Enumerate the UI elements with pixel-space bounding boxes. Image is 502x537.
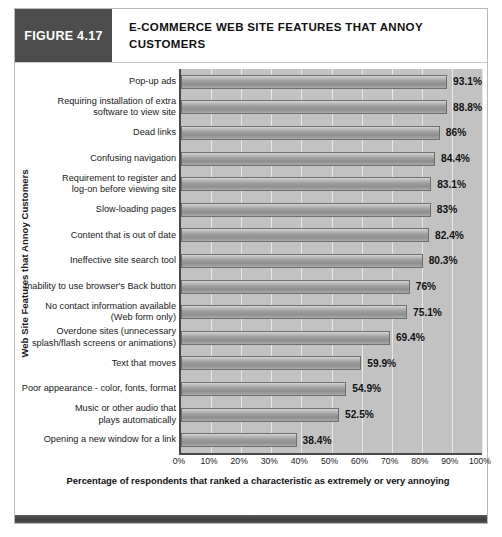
category-label: Overdone sites (unnecessarysplash/flash … [0, 326, 176, 349]
bar [181, 126, 440, 140]
x-axis-tick-label: 0% [173, 456, 185, 466]
bar-value-label: 86% [446, 127, 466, 138]
category-label: No contact information available(Web for… [0, 301, 176, 324]
category-label: Requirement to register andlog-on before… [0, 173, 176, 196]
x-axis-tick-label: 20% [231, 456, 248, 466]
bar-track: 38.4% [181, 427, 482, 453]
bar-track: 69.4% [181, 325, 482, 351]
x-axis-tick-label: 80% [411, 456, 428, 466]
bar-row: Music or other audio thatplays automatic… [37, 402, 479, 428]
x-axis-tick-label: 100% [469, 456, 491, 466]
x-axis-tick-label: 40% [291, 456, 308, 466]
bar [181, 254, 423, 268]
bar [181, 203, 431, 217]
bar-track: 52.5% [181, 402, 482, 428]
bar-row: Inability to use browser's Back button76… [37, 274, 479, 300]
category-label: Confusing navigation [0, 153, 176, 165]
bar-row: Opening a new window for a link38.4% [37, 427, 479, 453]
bar [181, 75, 447, 89]
bar-row: Dead links86% [37, 120, 479, 146]
bar-row: Confusing navigation84.4% [37, 146, 479, 172]
bar-value-label: 52.5% [345, 409, 374, 420]
chart-body: Web Site Features that Annoy Customers P… [15, 63, 487, 524]
bar-track: 76% [181, 274, 482, 300]
x-axis-tick-label: 10% [200, 456, 217, 466]
plot-wrapper: Pop-up ads93.1%Requiring installation of… [37, 63, 479, 524]
bar-value-label: 76% [416, 281, 436, 292]
bar [181, 228, 429, 242]
bar-track: 54.9% [181, 376, 482, 402]
bar-row: Ineffective site search tool80.3% [37, 248, 479, 274]
x-axis-ticks: 0%10%20%30%40%50%60%70%80%90%100% [179, 456, 480, 470]
category-label: Text that moves [0, 358, 176, 370]
bar-track: 59.9% [181, 351, 482, 377]
figure-title: E-COMMERCE WEB SITE FEATURES THAT ANNOY … [112, 9, 487, 62]
bar [181, 382, 346, 396]
bar-value-label: 93.1% [453, 76, 482, 87]
category-label: Dead links [0, 127, 176, 139]
bar-track: 80.3% [181, 248, 482, 274]
category-label: Pop-up ads [0, 76, 176, 88]
bar [181, 177, 431, 191]
bar [181, 152, 435, 166]
category-label: Slow-loading pages [0, 204, 176, 216]
bar-track: 84.4% [181, 146, 482, 172]
figure-header: FIGURE 4.17 E-COMMERCE WEB SITE FEATURES… [15, 9, 487, 63]
bar-value-label: 83.1% [437, 179, 466, 190]
bar-value-label: 69.4% [396, 332, 425, 343]
bar [181, 100, 447, 114]
bar-row: Pop-up ads93.1% [37, 69, 479, 95]
bar-row: Overdone sites (unnecessarysplash/flash … [37, 325, 479, 351]
gridline [482, 69, 483, 453]
x-axis-tick-label: 50% [321, 456, 338, 466]
bar [181, 408, 339, 422]
category-label: Music or other audio thatplays automatic… [0, 403, 176, 426]
bar-rows: Pop-up ads93.1%Requiring installation of… [37, 69, 479, 453]
category-label: Opening a new window for a link [0, 434, 176, 446]
category-label: Content that is out of date [0, 230, 176, 242]
bar [181, 305, 407, 319]
figure-number-tag: FIGURE 4.17 [15, 9, 112, 62]
bar-row: Slow-loading pages83% [37, 197, 479, 223]
x-axis-tick-label: 60% [351, 456, 368, 466]
bar-track: 75.1% [181, 299, 482, 325]
bar-value-label: 88.8% [453, 102, 482, 113]
bar-track: 82.4% [181, 223, 482, 249]
bar-row: Content that is out of date82.4% [37, 223, 479, 249]
x-axis-tick-label: 90% [441, 456, 458, 466]
bar-row: No contact information available(Web for… [37, 299, 479, 325]
bar [181, 280, 410, 294]
figure-container: FIGURE 4.17 E-COMMERCE WEB SITE FEATURES… [14, 8, 488, 524]
bar [181, 433, 297, 447]
bar-row: Requiring installation of extrasoftware … [37, 95, 479, 121]
bar-value-label: 80.3% [429, 255, 458, 266]
category-label: Inability to use browser's Back button [0, 281, 176, 293]
bar-value-label: 38.4% [303, 435, 332, 446]
category-label: Poor appearance - color, fonts, format [0, 383, 176, 395]
bar-value-label: 54.9% [352, 383, 381, 394]
bar-row: Poor appearance - color, fonts, format54… [37, 376, 479, 402]
bar-track: 83.1% [181, 171, 482, 197]
bar-track: 86% [181, 120, 482, 146]
category-label: Ineffective site search tool [0, 255, 176, 267]
bar [181, 356, 361, 370]
bar-value-label: 75.1% [413, 307, 442, 318]
bar-value-label: 84.4% [441, 153, 470, 164]
bar-track: 88.8% [181, 95, 482, 121]
bar-track: 83% [181, 197, 482, 223]
bar-row: Text that moves59.9% [37, 351, 479, 377]
x-axis-tick-label: 30% [261, 456, 278, 466]
bar-value-label: 59.9% [367, 358, 396, 369]
bar-track: 93.1% [181, 69, 482, 95]
figure-footer-rule [15, 515, 487, 523]
x-axis-title: Percentage of respondents that ranked a … [37, 475, 479, 486]
bar-value-label: 83% [437, 204, 457, 215]
category-label: Requiring installation of extrasoftware … [0, 96, 176, 119]
bar-row: Requirement to register andlog-on before… [37, 171, 479, 197]
bar [181, 331, 390, 345]
bar-value-label: 82.4% [435, 230, 464, 241]
x-axis-tick-label: 70% [381, 456, 398, 466]
